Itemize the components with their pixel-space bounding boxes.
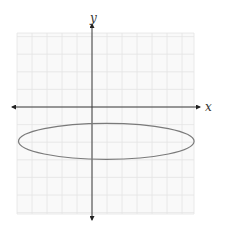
- x-axis-label: x: [205, 100, 212, 114]
- y-axis-label: y: [89, 11, 97, 25]
- coordinate-plane: x y: [0, 0, 225, 231]
